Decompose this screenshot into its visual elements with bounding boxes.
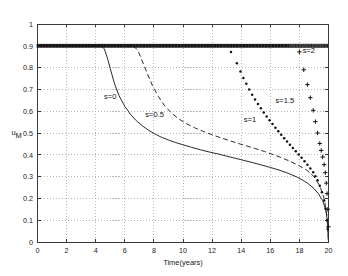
series-marker-s=2 xyxy=(118,44,120,48)
series-marker-s=2 xyxy=(125,44,127,48)
series-marker-s=2 xyxy=(42,44,44,48)
series-marker-s=2 xyxy=(112,44,114,48)
series-marker-s=1 xyxy=(254,98,257,101)
series-marker-s=2 xyxy=(182,44,184,48)
series-marker-s=1 xyxy=(321,191,324,194)
x-tick-label: 10 xyxy=(179,246,187,255)
series-marker-s=2 xyxy=(285,44,287,48)
series-marker-s=2 xyxy=(253,44,255,48)
series-marker-s=2 xyxy=(135,44,137,48)
series-marker-s=2 xyxy=(109,44,111,48)
series-marker-s=2 xyxy=(232,44,234,48)
series-marker-s=2 xyxy=(198,44,200,48)
series-marker-s=2 xyxy=(51,44,53,48)
x-tick-label: 18 xyxy=(295,246,303,255)
series-marker-s=2 xyxy=(192,44,194,48)
series-marker-s=1 xyxy=(280,133,283,136)
curve-label-s2: s=2 xyxy=(303,46,315,55)
curve-label-s05: s=0.5 xyxy=(145,110,164,119)
series-marker-s=2 xyxy=(172,44,174,48)
series-marker-s=2 xyxy=(106,44,108,48)
series-marker-s=2 xyxy=(270,44,272,48)
series-marker-s=1 xyxy=(239,70,242,73)
series-marker-s=2 xyxy=(154,44,156,48)
series-marker-s=2 xyxy=(272,44,274,48)
series-marker-s=2 xyxy=(157,44,159,48)
series-marker-s=2 xyxy=(95,44,97,48)
tick-labels-layer: 0246810121416182000.10.20.30.40.50.60.70… xyxy=(23,20,333,255)
series-marker-s=2 xyxy=(234,44,236,48)
series-marker-s=2 xyxy=(160,44,162,48)
series-marker-s=2 xyxy=(121,44,123,48)
series-marker-s=2 xyxy=(206,44,208,48)
series-marker-s=2 xyxy=(228,44,230,48)
series-marker-s=2 xyxy=(219,44,221,48)
y-tick-label: 0.8 xyxy=(23,63,33,72)
series-marker-s=1 xyxy=(245,82,248,85)
series-marker-s=2 xyxy=(183,44,185,48)
series-marker-s=2 xyxy=(86,44,88,48)
series-marker-s=1 xyxy=(303,160,306,163)
series-marker-s=1 xyxy=(260,107,263,110)
series-marker-s=1 xyxy=(230,51,233,54)
series-marker-s=1 xyxy=(248,88,251,91)
series-marker-s=2 xyxy=(230,44,232,48)
series-marker-s=2 xyxy=(202,44,204,48)
y-tick-label: 0 xyxy=(29,238,33,247)
series-marker-s=2 xyxy=(143,44,145,48)
series-marker-s=2 xyxy=(80,44,82,48)
series-marker-s=2 xyxy=(56,44,58,48)
x-tick-label: 2 xyxy=(65,246,69,255)
series-marker-s=2 xyxy=(128,44,130,48)
series-marker-s=2 xyxy=(122,44,124,48)
series-marker-s=2 xyxy=(167,44,169,48)
grid-layer xyxy=(38,24,329,242)
x-tick-label: 6 xyxy=(123,246,127,255)
series-marker-s=2 xyxy=(264,44,266,48)
series-marker-s=2 xyxy=(263,44,265,48)
series-marker-s=2 xyxy=(41,44,43,48)
series-marker-s=2 xyxy=(261,44,263,48)
series-marker-s=1 xyxy=(265,115,268,118)
x-tick-label: 12 xyxy=(208,246,216,255)
series-marker-s=2 xyxy=(124,44,126,48)
series-marker-s=2 xyxy=(54,44,56,48)
series-marker-s=2 xyxy=(70,44,72,48)
series-marker-s=2 xyxy=(224,44,226,48)
y-tick-label: 0.4 xyxy=(23,151,33,160)
series-marker-s=2 xyxy=(153,44,155,48)
series-marker-s=2 xyxy=(201,44,203,48)
series-marker-s=1 xyxy=(306,164,309,167)
series-marker-s=2 xyxy=(185,44,187,48)
series-marker-s=2 xyxy=(151,44,153,48)
series-marker-s=2 xyxy=(241,44,243,48)
series-marker-s=1 xyxy=(295,150,298,153)
curve-label-s1: s=1 xyxy=(244,115,256,124)
series-marker-s=2 xyxy=(83,44,85,48)
curve-label-s15: s=1.5 xyxy=(276,96,295,105)
chart-figure: 0246810121416182000.10.20.30.40.50.60.70… xyxy=(0,0,348,276)
series-marker-s=2 xyxy=(166,44,168,48)
series-marker-s=2 xyxy=(90,44,92,48)
series-marker-s=2 xyxy=(37,44,39,48)
series-marker-s=2 xyxy=(129,44,131,48)
series-marker-s=2 xyxy=(244,44,246,48)
series-marker-s=2 xyxy=(218,44,220,48)
series-marker-s=2 xyxy=(203,44,205,48)
series-marker-s=2 xyxy=(76,44,78,48)
series-marker-s=2 xyxy=(77,44,79,48)
series-marker-s=2 xyxy=(69,44,71,48)
curve-annotations-layer: s=0s=0.5s=1s=1.5s=2 xyxy=(104,46,315,124)
series-marker-s=2 xyxy=(96,44,98,48)
series-marker-s=2 xyxy=(158,44,160,48)
series-marker-s=2 xyxy=(87,44,89,48)
x-tick-label: 4 xyxy=(94,246,98,255)
data-series-layer xyxy=(37,44,331,242)
series-marker-s=2 xyxy=(243,44,245,48)
series-marker-s=2 xyxy=(279,44,281,48)
x-tick-label: 20 xyxy=(325,246,333,255)
series-marker-s=2 xyxy=(140,44,142,48)
series-marker-s=2 xyxy=(186,44,188,48)
series-marker-s=2 xyxy=(64,44,66,48)
series-marker-s=1 xyxy=(286,140,289,143)
